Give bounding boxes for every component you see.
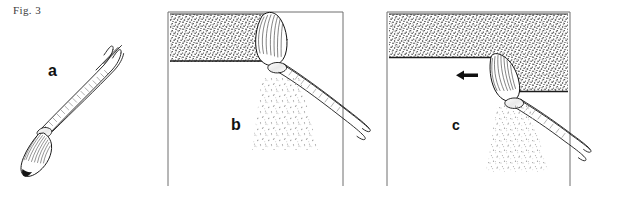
brush-handle-a [42, 46, 124, 134]
panel-b-drawing [168, 12, 370, 186]
figure-root: Fig. 3 a b c [0, 0, 617, 197]
panel-c-stipple-mass [389, 14, 568, 92]
paint-spray-b [245, 70, 338, 165]
brush-bristles-b [256, 12, 287, 65]
panel-a-drawing [21, 46, 124, 177]
arrow-left-icon [456, 71, 478, 81]
panel-label-b: b [231, 116, 241, 134]
panel-b-stipple-mass [170, 14, 268, 62]
figure-illustration [0, 0, 617, 197]
brush-bristles-a [21, 133, 52, 177]
panel-c-drawing [387, 12, 591, 189]
panel-label-c: c [452, 117, 460, 133]
figure-caption: Fig. 3 [13, 4, 41, 16]
paint-spray-c [480, 98, 564, 189]
panel-label-a: a [48, 62, 57, 80]
